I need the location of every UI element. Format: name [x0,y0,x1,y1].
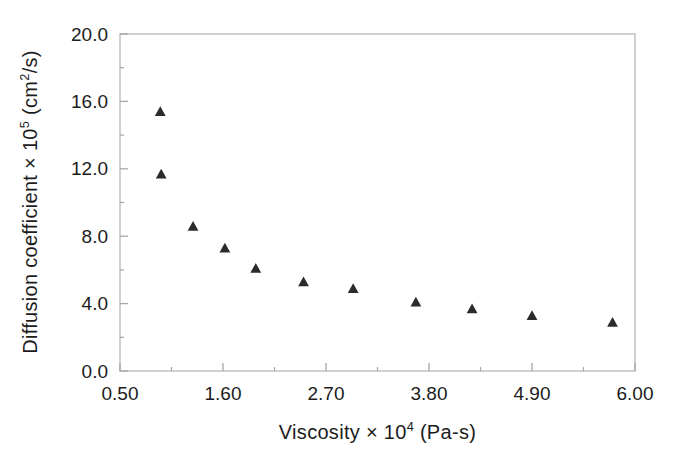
y-axis-title-units-exponent: 2 [17,73,32,80]
data-point-marker [188,221,199,231]
y-axis-title-units-end: /s) [19,50,41,73]
x-tick-label: 4.90 [514,383,551,404]
y-tick-label: 20.0 [71,24,108,45]
data-point-marker [155,106,166,116]
x-tick-label: 2.70 [308,383,345,404]
data-point-marker [298,276,309,286]
data-point-marker [156,169,167,179]
data-point-marker [410,297,421,307]
x-axis-title-units: (Pa-s) [414,421,476,443]
scatter-plot: 0.501.602.703.804.906.000.04.08.012.016.… [0,0,691,463]
y-tick-label: 8.0 [82,226,108,247]
data-point-marker [467,303,478,313]
data-point-marker [348,283,359,293]
data-point-marker [527,310,538,320]
y-axis-title-exponent: 5 [17,121,32,128]
data-point-marker [607,317,618,327]
y-tick-label: 4.0 [82,293,108,314]
y-axis-title: Diffusion coefficient × 105 (cm2/s) [19,32,45,372]
x-tick-label: 6.00 [617,383,654,404]
x-tick-label: 3.80 [411,383,448,404]
x-tick-label: 1.60 [205,383,242,404]
x-axis-title: Viscosity × 104 (Pa-s) [120,421,635,444]
data-point-marker [219,243,230,253]
x-axis-title-text: Viscosity × 10 [279,421,407,443]
y-tick-label: 12.0 [71,158,108,179]
y-axis-title-text: Diffusion coefficient × 10 [19,128,41,354]
data-point-marker [250,263,261,273]
x-axis-title-exponent: 4 [407,419,414,434]
plot-border [120,34,635,371]
x-tick-label: 0.50 [102,383,139,404]
y-tick-label: 0.0 [82,361,108,382]
y-tick-label: 16.0 [71,91,108,112]
figure: 0.501.602.703.804.906.000.04.08.012.016.… [0,0,691,463]
y-axis-title-units: (cm [19,81,41,121]
